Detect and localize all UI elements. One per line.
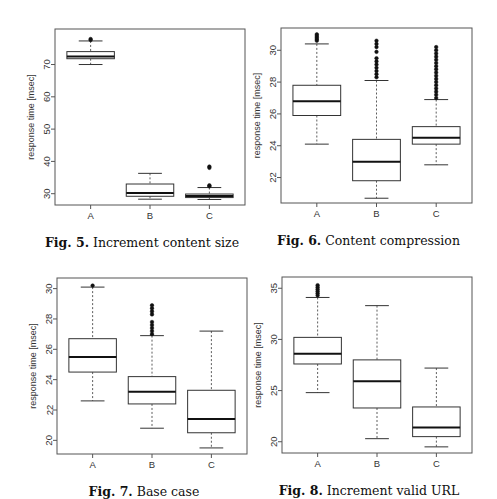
y-axis-title: response time [msec] — [252, 73, 262, 159]
chart-fig8: 20253035response time [msec]ABC — [253, 277, 472, 469]
caption-fig7: Fig. 7. Base case — [44, 484, 244, 499]
y-tick-label: 26 — [44, 344, 55, 355]
y-tick-label: 40 — [42, 156, 53, 167]
box-A — [69, 284, 117, 401]
x-tick-label: A — [314, 208, 321, 219]
caption-label: Fig. 7. — [89, 484, 133, 499]
y-tick-label: 26 — [268, 109, 279, 120]
x-tick-label: C — [208, 459, 215, 470]
caption-fig5: Fig. 5. Increment content size — [42, 235, 242, 250]
iqr-box — [353, 360, 401, 408]
y-tick-label: 30 — [44, 283, 55, 294]
box-B — [353, 39, 401, 198]
y-tick-label: 22 — [44, 405, 55, 416]
caption-text: Increment content size — [89, 235, 239, 250]
outlier-point — [150, 320, 154, 324]
iqr-box — [353, 139, 401, 180]
caption-label: Fig. 6. — [277, 233, 321, 248]
iqr-box — [67, 52, 115, 59]
x-tick-label: A — [87, 210, 94, 221]
outlier-point — [208, 184, 212, 188]
y-tick-label: 28 — [44, 314, 55, 325]
box-B — [353, 306, 401, 439]
y-tick-label: 24 — [268, 140, 279, 151]
outlier-point — [375, 39, 379, 43]
caption-text: Increment valid URL — [323, 483, 459, 498]
x-tick-label: B — [373, 208, 379, 219]
outlier-point — [89, 37, 93, 41]
caption-fig6: Fig. 6. Content compression — [269, 233, 469, 248]
iqr-box — [126, 184, 174, 196]
box-B — [126, 173, 174, 199]
caption-text: Content compression — [321, 233, 460, 248]
y-tick-label: 35 — [269, 283, 280, 294]
box-A — [67, 37, 115, 64]
outlier-point — [434, 45, 438, 49]
box-A — [294, 283, 342, 392]
y-tick-label: 70 — [42, 59, 53, 70]
iqr-box — [188, 390, 236, 432]
outlier-point — [91, 284, 95, 288]
y-tick-label: 25 — [269, 385, 280, 396]
chart-fig5: 3040506070response time [msec]ABC — [26, 29, 245, 221]
x-tick-label: B — [374, 458, 380, 469]
y-axis-title: response time [msec] — [28, 323, 38, 409]
iqr-box — [128, 377, 176, 404]
chart-fig6: 2224262830response time [msec]ABC — [252, 28, 472, 219]
caption-fig8: Fig. 8. Increment valid URL — [269, 483, 469, 498]
outlier-point — [375, 56, 379, 60]
x-tick-label: B — [147, 210, 153, 221]
box-C — [188, 331, 236, 448]
iqr-box — [412, 127, 460, 144]
caption-label: Fig. 5. — [45, 235, 89, 250]
y-tick-label: 20 — [44, 435, 55, 446]
caption-text: Base case — [133, 484, 200, 499]
x-tick-label: A — [314, 458, 321, 469]
box-C — [186, 165, 234, 200]
outlier-point — [208, 165, 212, 169]
y-tick-label: 22 — [268, 172, 279, 183]
x-tick-label: A — [89, 459, 96, 470]
y-tick-label: 30 — [268, 45, 279, 56]
y-axis-title: response time [msec] — [26, 74, 36, 160]
box-C — [413, 368, 461, 447]
y-axis-title: response time [msec] — [253, 322, 263, 408]
iqr-box — [413, 407, 461, 437]
y-tick-label: 24 — [44, 374, 55, 385]
y-tick-label: 60 — [42, 92, 53, 103]
outlier-point — [150, 304, 154, 308]
x-tick-label: C — [433, 208, 440, 219]
box-A — [293, 33, 341, 145]
outlier-point — [375, 50, 379, 54]
x-tick-label: C — [433, 458, 440, 469]
outlier-point — [316, 283, 320, 287]
y-tick-label: 28 — [268, 77, 279, 88]
box-C — [412, 45, 460, 165]
x-tick-label: C — [206, 210, 213, 221]
y-tick-label: 30 — [42, 188, 53, 199]
iqr-box — [69, 339, 117, 372]
y-tick-label: 30 — [269, 334, 280, 345]
caption-label: Fig. 8. — [279, 483, 323, 498]
y-tick-label: 20 — [269, 436, 280, 447]
iqr-box — [294, 337, 342, 364]
outlier-point — [315, 33, 319, 37]
x-tick-label: B — [149, 459, 155, 470]
chart-fig7: 202224262830response time [msec]ABC — [28, 278, 247, 470]
y-tick-label: 50 — [42, 124, 53, 135]
box-B — [128, 304, 176, 429]
